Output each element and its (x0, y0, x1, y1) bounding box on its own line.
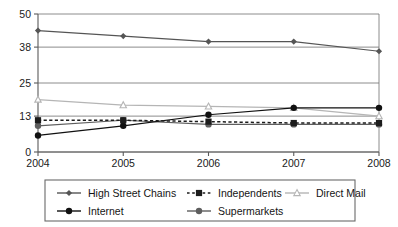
y-axis-tick-label: 25 (19, 77, 31, 89)
y-axis-tick-label: 38 (19, 41, 31, 53)
y-axis-tick-label: 0 (25, 146, 31, 158)
chart-legend: High Street ChainsIndependentsDirect Mai… (45, 180, 366, 221)
data-point-marker (376, 105, 382, 111)
y-axis-tick-label: 13 (19, 110, 31, 122)
legend-item-label: Independents (218, 187, 282, 199)
legend-swatch-marker (196, 208, 202, 214)
data-point-marker (35, 117, 41, 123)
legend-item-label: Supermarkets (218, 205, 283, 217)
line-chart: 013253850 20042005200620072008 High Stre… (0, 0, 398, 227)
x-axis-tick-label: 2007 (282, 157, 306, 169)
data-point-marker (35, 132, 41, 138)
legend-item-label: High Street Chains (88, 187, 176, 199)
x-axis-tick-label: 2005 (112, 157, 136, 169)
data-point-marker (35, 123, 41, 129)
x-axis-tick-label: 2008 (367, 157, 391, 169)
data-point-marker (120, 117, 126, 123)
data-point-marker (120, 123, 126, 129)
legend-swatch-marker (66, 208, 72, 214)
legend-swatch-marker (196, 190, 202, 196)
data-point-marker (205, 112, 211, 118)
data-point-marker (291, 120, 297, 126)
x-axis-tick-label: 2004 (26, 157, 50, 169)
data-point-marker (205, 119, 211, 125)
y-axis-tick-label: 50 (19, 8, 31, 20)
data-point-marker (376, 120, 382, 126)
x-axis-tick-label: 2006 (197, 157, 221, 169)
legend-item-label: Internet (88, 205, 124, 217)
legend-item-label: Direct Mail (316, 187, 366, 199)
data-point-marker (291, 105, 297, 111)
chart-canvas: 013253850 20042005200620072008 High Stre… (0, 0, 398, 227)
